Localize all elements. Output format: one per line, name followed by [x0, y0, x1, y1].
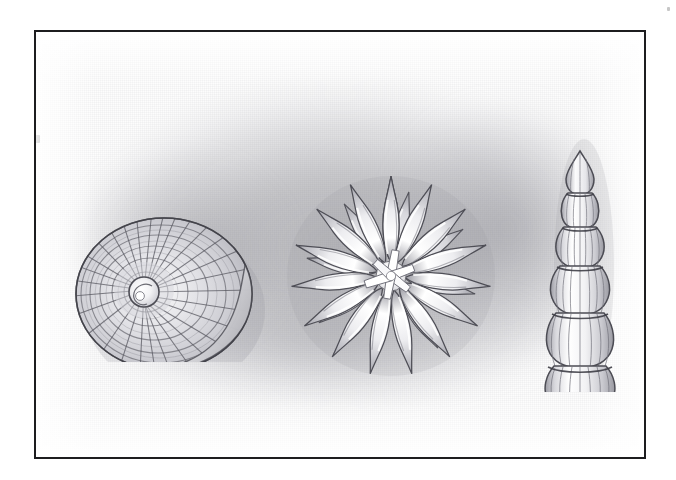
specimen-coiled-shell: [66, 172, 276, 362]
specimen-segmented-test: [516, 127, 646, 392]
left-rule-tick-mark: [34, 135, 40, 143]
paper-speck-mark: [667, 7, 670, 11]
illustration-plate-frame: [34, 30, 646, 459]
paper-sheet: [0, 0, 676, 480]
specimen-radiate-star: [276, 160, 506, 385]
